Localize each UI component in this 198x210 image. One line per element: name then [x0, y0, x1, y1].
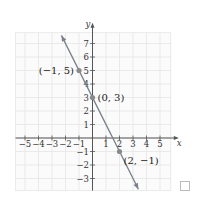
- answer-checkbox[interactable]: [180, 181, 190, 191]
- y-tick-label: −1: [76, 147, 89, 157]
- grid: [16, 33, 171, 191]
- y-tick-label: −2: [76, 160, 89, 170]
- point-label: (0, 3): [98, 92, 125, 103]
- data-point: [117, 149, 122, 154]
- y-tick-label: −3: [76, 174, 89, 184]
- data-point: [76, 68, 81, 73]
- x-axis-label: x: [177, 138, 182, 148]
- x-tick-label: −2: [59, 139, 72, 149]
- x-tick-label: −4: [32, 139, 45, 149]
- y-tick-label: 5: [84, 66, 89, 76]
- x-tick-label: −3: [46, 139, 59, 149]
- x-tick-label: 4: [144, 139, 149, 149]
- y-tick-label: 6: [84, 52, 89, 62]
- x-tick-label: 3: [130, 139, 135, 149]
- y-axis-arrow-icon: [91, 23, 95, 28]
- y-tick-label: 1: [84, 120, 89, 130]
- x-tick-label: 1: [103, 139, 108, 149]
- point-label: (−1, 5): [39, 65, 74, 76]
- x-tick-label: 5: [157, 139, 162, 149]
- point-label: (2, −1): [124, 155, 159, 166]
- y-tick-label: 3: [84, 93, 89, 103]
- data-point: [90, 95, 95, 100]
- x-tick-label: −5: [19, 139, 32, 149]
- y-axis-label: y: [85, 19, 91, 29]
- y-tick-label: 7: [84, 39, 89, 49]
- line-graph: xy −5−4−3−2−112345−3−2−11234567 (−1, 5)(…: [0, 0, 198, 210]
- y-tick-label: 2: [84, 106, 89, 116]
